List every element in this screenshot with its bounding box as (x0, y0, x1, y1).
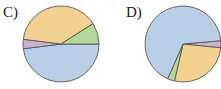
pie-chart-d (0, 0, 221, 89)
